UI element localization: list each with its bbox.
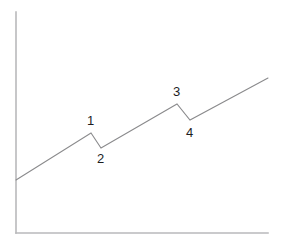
point-label-2: 2 [97,152,104,165]
point-label-1: 1 [87,114,94,127]
chart-figure: 1234 [0,0,281,245]
point-label-4: 4 [186,126,193,139]
point-label-3: 3 [173,85,180,98]
trend-line [16,78,268,180]
chart-canvas [0,0,281,245]
